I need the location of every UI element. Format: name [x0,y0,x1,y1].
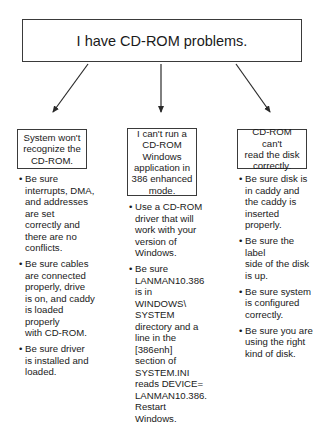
bullet-icon: • [19,343,22,355]
tip-text: Be sure interrupts, DMA, and addresses a… [25,173,94,253]
tip-text: Be sure you are using the right kind of … [245,325,313,359]
problem-label: CD-ROM can't read the disk correctly. [241,126,303,172]
tip-item: •Be sure the label side of the disk is u… [240,235,315,281]
tip-text: Be sure the label side of the disk is up… [245,235,309,281]
tip-text: Be sure LANMAN10.386 is in WINDOWS\ SYST… [135,263,207,424]
tips-list-windows-386: •Use a CD-ROM driver that will work with… [130,201,205,426]
bullet-icon: • [19,173,22,185]
tip-text: Be sure driver is installed and loaded. [25,343,88,377]
tip-text: Be sure disk is in caddy and the caddy i… [245,173,307,230]
tip-text: Be sure cables are connected properly, d… [25,258,95,338]
root-problem-label: I have CD-ROM problems. [77,33,248,49]
problem-label: System won't recognize the CD-ROM. [23,132,81,166]
tip-item: •Be sure interrupts, DMA, and addresses … [20,173,95,254]
bullet-icon: • [239,286,242,298]
tips-list-cant-read-disk: •Be sure disk is in caddy and the caddy … [240,173,315,364]
bullet-icon: • [129,263,132,275]
tip-text: Use a CD-ROM driver that will work with … [135,201,202,258]
bullet-icon: • [129,201,132,213]
bullet-icon: • [19,258,22,270]
problem-box-not-recognized: System won't recognize the CD-ROM. [17,129,87,169]
tip-item: •Be sure disk is in caddy and the caddy … [240,173,315,231]
problem-label: I can't run a CD-ROM Windows application… [132,128,193,196]
bullet-icon: • [239,235,242,247]
tips-list-not-recognized: •Be sure interrupts, DMA, and addresses … [20,173,95,382]
problem-box-cant-read-disk: CD-ROM can't read the disk correctly. [237,129,307,169]
tip-item: •Use a CD-ROM driver that will work with… [130,201,205,259]
arrow-to-left-branch [53,64,88,112]
problem-box-windows-386: I can't run a CD-ROM Windows application… [127,128,197,196]
bullet-icon: • [239,173,242,185]
bullet-icon: • [239,325,242,337]
tip-item: •Be sure system is configured correctly. [240,286,315,321]
root-problem-box: I have CD-ROM problems. [22,19,302,62]
arrow-to-right-branch [236,64,270,112]
tip-item: •Be sure LANMAN10.386 is in WINDOWS\ SYS… [130,263,205,424]
tip-item: •Be sure cables are connected properly, … [20,258,95,339]
tip-item: •Be sure you are using the right kind of… [240,325,315,360]
tip-item: •Be sure driver is installed and loaded. [20,343,95,378]
tip-text: Be sure system is configured correctly. [245,286,311,320]
